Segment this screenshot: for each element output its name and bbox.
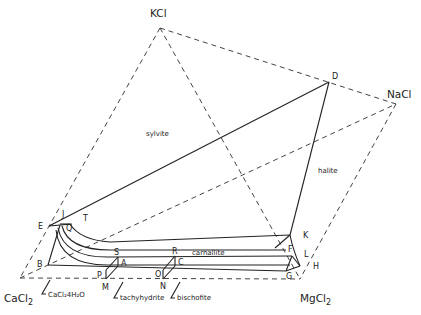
- point-label-n: N: [160, 282, 166, 291]
- solid-boundaries: [42, 82, 329, 298]
- annotation-cacl2-4h2o: CaCl₂4H₂O: [48, 291, 85, 299]
- point-label-o: O: [155, 270, 161, 279]
- phase-label-sylvite: sylvite: [146, 130, 169, 138]
- point-label-j: J: [61, 210, 64, 219]
- point-label-d: D: [332, 72, 338, 81]
- point-label-s: S: [114, 248, 119, 257]
- point-label-e: E: [38, 222, 43, 231]
- point-label-b: B: [37, 260, 43, 269]
- dashed-frame: [20, 28, 396, 279]
- point-label-q: Q: [66, 224, 72, 233]
- point-label-g: G: [286, 272, 292, 281]
- point-label-t: T: [82, 214, 88, 223]
- point-label-m: M: [102, 283, 109, 292]
- point-label-l: L: [304, 250, 309, 259]
- component-label-kcl: KCl: [150, 7, 167, 19]
- component-label-mgcl2: MgCl2: [300, 292, 331, 307]
- point-label-k: K: [303, 231, 309, 240]
- point-label-p: P: [97, 271, 102, 280]
- point-label-h: H: [313, 262, 319, 271]
- component-label-nacl: NaCl: [387, 88, 412, 100]
- phase-diagram: KCl NaCl CaCl2 MgCl2 sylvite halite carn…: [0, 0, 421, 315]
- component-label-cacl2: CaCl2: [4, 292, 33, 307]
- point-label-f: F: [288, 245, 293, 254]
- annotation-bischofite: bischofite: [177, 294, 211, 302]
- point-label-a: A: [121, 259, 127, 268]
- phase-label-carnallite: carnallite: [192, 249, 225, 257]
- annotation-tachyhydrite: tachyhydrite: [120, 294, 164, 302]
- point-label-c: C: [178, 258, 184, 267]
- point-label-r: R: [172, 247, 178, 256]
- phase-label-halite: halite: [318, 167, 338, 175]
